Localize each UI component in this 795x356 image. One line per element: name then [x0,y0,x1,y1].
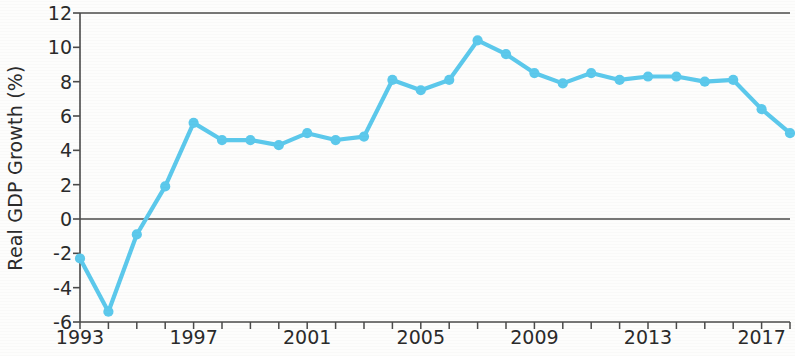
data-point-marker [217,135,227,145]
data-point-marker [387,75,397,85]
x-tick-label: 2017 [737,326,785,348]
data-point-marker [615,75,625,85]
data-point-marker [331,135,341,145]
x-tick-label: 2009 [510,326,558,348]
data-point-marker [274,140,284,150]
x-tick-label: 2013 [624,326,672,348]
data-point-marker [444,75,454,85]
plot-area [0,0,795,356]
data-point-marker [473,35,483,45]
axes [73,13,790,329]
data-series [75,35,795,316]
x-tick-label: 1993 [56,326,104,348]
x-tick-label: 2001 [283,326,331,348]
data-point-marker [643,71,653,81]
gdp-growth-line-chart: Real GDP Growth (%) -6-4-2024681012 1993… [0,0,795,356]
data-point-marker [700,77,710,87]
data-point-marker [245,135,255,145]
data-point-marker [785,128,795,138]
data-point-marker [728,75,738,85]
data-point-marker [160,181,170,191]
data-point-marker [529,68,539,78]
x-tick-label: 2005 [397,326,445,348]
data-point-marker [501,49,511,59]
data-point-marker [359,132,369,142]
data-point-marker [103,307,113,317]
data-point-marker [189,118,199,128]
data-point-marker [132,229,142,239]
data-point-marker [757,104,767,114]
series-line [80,40,790,311]
data-point-marker [75,253,85,263]
x-tick-label: 1997 [169,326,217,348]
data-point-marker [671,71,681,81]
data-point-marker [416,85,426,95]
data-point-marker [302,128,312,138]
data-point-marker [558,78,568,88]
data-point-marker [586,68,596,78]
